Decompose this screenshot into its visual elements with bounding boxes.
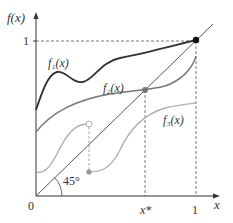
f2-label: f₂(x) <box>103 81 124 95</box>
origin-label: 0 <box>28 199 34 213</box>
fixed-point-diagram: f(x) 1 f₁(x) f₂(x) f₃(x) 45° 0 x* 1 x <box>0 0 233 223</box>
f1-label: f₁(x) <box>48 56 69 70</box>
y-axis-label: f(x) <box>7 10 25 25</box>
f3-closed-point <box>86 169 91 174</box>
angle-label: 45° <box>63 174 80 188</box>
x-tick-xstar-label: x* <box>139 203 151 217</box>
f3-label: f₃(x) <box>163 113 184 127</box>
angle-arc <box>54 178 62 196</box>
f1-curve <box>36 40 196 110</box>
f1-fixed-point <box>193 37 199 43</box>
f3-curve-left <box>36 124 87 172</box>
y-tick-one-label: 1 <box>23 34 29 48</box>
f2-fixed-point <box>142 87 148 93</box>
f3-open-point <box>86 121 92 127</box>
y-axis-arrow-icon <box>34 12 39 19</box>
x-tick-one-label: 1 <box>192 203 198 217</box>
x-axis-label: x <box>213 197 220 212</box>
